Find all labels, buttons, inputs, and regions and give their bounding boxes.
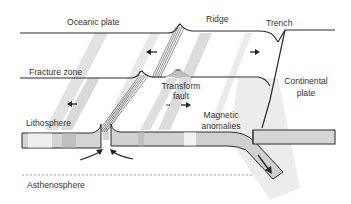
ridge-label: Ridge bbox=[206, 14, 228, 24]
asthenosphere-label: Asthenosphere bbox=[27, 180, 85, 190]
diagram-artwork bbox=[0, 0, 351, 204]
magnetic-anomalies-label-line1: Magnetic bbox=[198, 110, 244, 120]
motion-arrow-right-top bbox=[250, 49, 260, 55]
trench-label: Trench bbox=[266, 18, 292, 28]
continental-plate-label-line1: Continental bbox=[280, 76, 332, 86]
continental-plate-label-line2: plate bbox=[280, 88, 332, 98]
upwelling-arrow-left bbox=[80, 151, 101, 160]
plate-tectonics-diagram: Oceanic plate Ridge Trench Fracture zone… bbox=[0, 0, 351, 204]
motion-arrow-right-mid bbox=[181, 102, 191, 108]
fracture-zone-label: Fracture zone bbox=[29, 67, 82, 77]
oceanic-plate-label: Oceanic plate bbox=[67, 17, 120, 27]
lithosphere-label: Lithosphere bbox=[26, 118, 71, 128]
continental-lithosphere bbox=[253, 130, 335, 144]
transform-fault-label-line2: fault bbox=[160, 91, 202, 101]
magnetic-anomalies-label-line2: anomalies bbox=[198, 121, 244, 131]
transform-fault-label-line1: Transform bbox=[160, 81, 202, 91]
